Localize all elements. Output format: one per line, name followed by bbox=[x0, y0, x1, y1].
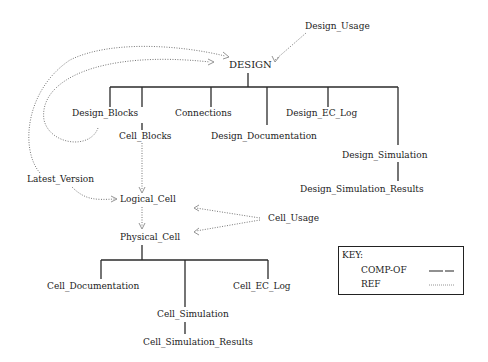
node-cell-blocks: Cell_Blocks bbox=[119, 131, 172, 142]
ref-cell-usage-to-logical-cell bbox=[196, 208, 260, 218]
schema-diagram: Design_Usage DESIGN Design_Blocks Connec… bbox=[0, 0, 488, 362]
arrowhead-design-blocks-ref bbox=[208, 59, 214, 65]
node-logical-cell: Logical_Cell bbox=[120, 194, 176, 205]
ref-design-usage-to-design bbox=[275, 33, 306, 60]
arrowhead-logical-cell-cellblocks bbox=[139, 187, 145, 193]
node-cell-simulation: Cell_Simulation bbox=[157, 309, 229, 320]
node-design-ec-log: Design_EC_Log bbox=[286, 108, 357, 119]
node-cell-usage: Cell_Usage bbox=[268, 213, 319, 224]
legend-swatches bbox=[339, 247, 463, 294]
arrowhead-cell-usage-physical bbox=[194, 228, 199, 235]
node-design-blocks: Design_Blocks bbox=[72, 108, 138, 119]
node-design-documentation: Design_Documentation bbox=[211, 131, 317, 142]
node-design-simulation-results: Design_Simulation_Results bbox=[300, 184, 424, 195]
node-design-simulation: Design_Simulation bbox=[342, 150, 427, 161]
node-cell-simulation-results: Cell_Simulation_Results bbox=[143, 337, 253, 348]
node-design-usage: Design_Usage bbox=[305, 21, 370, 32]
node-latest-version: Latest_Version bbox=[27, 174, 94, 185]
arrowhead-physical-cell bbox=[139, 223, 145, 229]
ref-latest-version-to-logical-cell bbox=[72, 187, 115, 199]
node-connections: Connections bbox=[175, 108, 232, 119]
node-physical-cell: Physical_Cell bbox=[120, 232, 180, 243]
node-design: DESIGN bbox=[229, 59, 272, 70]
ref-design-blocks-to-design bbox=[44, 59, 210, 142]
node-cell-documentation: Cell_Documentation bbox=[47, 281, 139, 292]
node-cell-ec-log: Cell_EC_Log bbox=[233, 281, 291, 292]
legend-key: KEY: COMP-OF REF bbox=[338, 246, 464, 295]
ref-cell-usage-to-physical-cell bbox=[196, 220, 260, 231]
